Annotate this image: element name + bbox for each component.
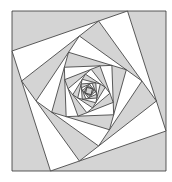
- inner-square: [86, 87, 93, 94]
- spiral-diagram: [0, 0, 172, 182]
